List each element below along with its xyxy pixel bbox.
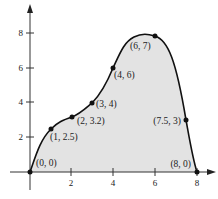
y-tick-label: 4 [19,97,24,107]
x-tick-label: 8 [195,178,200,188]
data-point [49,127,54,132]
data-point [195,170,200,175]
data-point [184,118,189,123]
point-label: (3, 4) [96,99,117,110]
data-point [70,115,75,120]
data-point [90,101,95,106]
y-tick-label: 2 [19,132,24,142]
y-ticks: 2 4 6 8 [19,28,35,142]
x-tick-label: 6 [153,178,158,188]
x-tick-label: 4 [111,178,116,188]
point-label: (2, 3.2) [77,116,105,127]
point-label: (8, 0) [170,159,191,170]
y-tick-label: 6 [19,63,24,73]
x-axis-arrow-icon [207,169,216,175]
point-label: (4, 6) [114,70,135,81]
point-label: (7.5, 3) [153,116,181,127]
point-label: (1, 2.5) [50,132,78,143]
y-tick-label: 8 [19,28,24,38]
data-point [153,34,158,39]
point-label: (0, 0) [36,158,57,169]
data-point [28,170,33,175]
point-label: (6, 7) [130,41,151,52]
chart: 2 4 6 8 2 4 6 8 (0, 0) (1, 2.5) (2, 3.2)… [0,0,218,199]
x-tick-label: 2 [69,178,74,188]
y-axis-arrow-icon [27,4,33,13]
